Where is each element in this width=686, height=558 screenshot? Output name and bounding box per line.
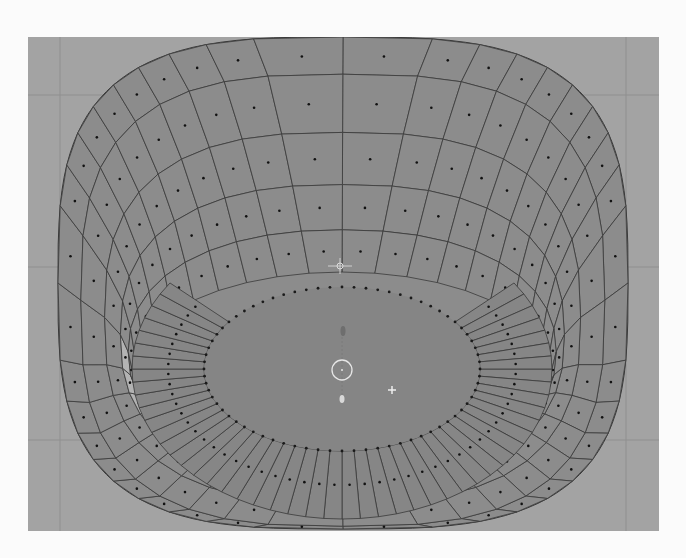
vertex-dot bbox=[228, 415, 231, 418]
face-dot bbox=[383, 525, 386, 528]
face-dot bbox=[301, 55, 304, 58]
face-dot bbox=[610, 381, 613, 384]
mesh-face[interactable] bbox=[343, 37, 433, 76]
face-dot bbox=[151, 264, 154, 267]
mesh-face[interactable] bbox=[293, 185, 343, 232]
face-dot bbox=[506, 403, 509, 406]
vertex-dot bbox=[460, 409, 463, 412]
face-dot bbox=[138, 426, 141, 429]
face-dot bbox=[450, 167, 453, 170]
face-dot bbox=[136, 459, 139, 462]
face-dot bbox=[557, 245, 560, 248]
vertex-dot bbox=[446, 420, 449, 423]
face-dot bbox=[513, 383, 516, 386]
face-dot bbox=[278, 209, 281, 212]
vertex-dot bbox=[216, 333, 219, 336]
face-dot bbox=[117, 379, 120, 382]
vertex-dot bbox=[221, 409, 224, 412]
vertex-dot bbox=[474, 389, 477, 392]
face-dot bbox=[394, 253, 397, 256]
3d-viewport[interactable]: Edit Mode Face Ring mesh bbox=[28, 37, 659, 531]
vertex-dot bbox=[282, 293, 285, 296]
face-dot bbox=[138, 223, 141, 226]
face-dot bbox=[130, 349, 133, 352]
face-dot bbox=[124, 356, 127, 359]
vertex-dot bbox=[420, 300, 423, 303]
face-dot bbox=[527, 205, 530, 208]
face-dot bbox=[455, 265, 458, 268]
vertex-dot bbox=[438, 426, 441, 429]
face-dot bbox=[458, 453, 461, 456]
vertex-dot bbox=[353, 286, 356, 289]
vertex-dot bbox=[272, 439, 275, 442]
face-dot bbox=[510, 393, 513, 396]
vertex-dot bbox=[460, 327, 463, 330]
face-dot bbox=[404, 209, 407, 212]
face-dot bbox=[531, 264, 534, 267]
mesh-face[interactable] bbox=[254, 37, 343, 76]
face-dot bbox=[446, 522, 449, 525]
face-dot bbox=[348, 483, 351, 486]
mesh-canvas[interactable] bbox=[28, 37, 659, 531]
vertex-dot bbox=[477, 382, 480, 385]
mesh-face[interactable] bbox=[282, 132, 343, 186]
face-dot bbox=[168, 353, 171, 356]
face-dot bbox=[235, 460, 238, 463]
origin-marker-icon bbox=[341, 326, 346, 336]
face-dot bbox=[202, 177, 205, 180]
face-dot bbox=[136, 156, 139, 159]
face-dot bbox=[74, 381, 77, 384]
face-dot bbox=[363, 483, 366, 486]
face-dot bbox=[553, 302, 556, 305]
vertex-dot bbox=[470, 396, 473, 399]
vertex-dot bbox=[399, 442, 402, 445]
face-dot bbox=[237, 522, 240, 525]
face-dot bbox=[171, 393, 174, 396]
face-dot bbox=[322, 250, 325, 253]
face-dot bbox=[544, 426, 547, 429]
vertex-dot bbox=[466, 333, 469, 336]
vertex-dot bbox=[203, 375, 206, 378]
face-dot bbox=[506, 333, 509, 336]
vertex-dot bbox=[293, 291, 296, 294]
vertex-dot bbox=[477, 353, 480, 356]
face-dot bbox=[548, 487, 551, 490]
face-dot bbox=[557, 404, 560, 407]
vertex-dot bbox=[211, 396, 214, 399]
face-dot bbox=[97, 381, 100, 384]
face-dot bbox=[468, 501, 471, 504]
face-dot bbox=[136, 487, 139, 490]
face-dot bbox=[307, 103, 310, 106]
vertex-dot bbox=[365, 448, 368, 451]
vertex-dot bbox=[429, 305, 432, 308]
vertex-dot bbox=[261, 435, 264, 438]
vertex-dot bbox=[474, 346, 477, 349]
face-dot bbox=[375, 103, 378, 106]
vertex-dot bbox=[243, 426, 246, 429]
face-dot bbox=[495, 314, 498, 317]
face-dot bbox=[437, 215, 440, 218]
face-dot bbox=[506, 189, 509, 192]
face-dot bbox=[570, 304, 573, 307]
face-dot bbox=[274, 475, 277, 478]
vertex-dot bbox=[205, 353, 208, 356]
face-dot bbox=[256, 258, 259, 261]
face-dot bbox=[588, 445, 591, 448]
face-dot bbox=[163, 503, 166, 506]
face-dot bbox=[96, 136, 99, 139]
face-dot bbox=[501, 323, 504, 326]
face-dot bbox=[590, 280, 593, 283]
face-dot bbox=[303, 481, 306, 484]
face-dot bbox=[383, 55, 386, 58]
vertex-dot bbox=[341, 286, 344, 289]
face-dot bbox=[614, 255, 617, 258]
face-dot bbox=[135, 331, 138, 334]
face-dot bbox=[232, 167, 235, 170]
face-dot bbox=[97, 234, 100, 237]
face-dot bbox=[177, 189, 180, 192]
vertex-dot bbox=[479, 368, 482, 371]
vertex-dot bbox=[478, 375, 481, 378]
face-dot bbox=[577, 412, 580, 415]
face-dot bbox=[466, 223, 469, 226]
face-dot bbox=[601, 165, 604, 168]
